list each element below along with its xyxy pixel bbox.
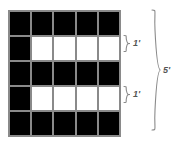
grid-cell bbox=[54, 12, 74, 35]
grid-cell bbox=[77, 62, 97, 85]
grid-cell bbox=[10, 12, 30, 35]
grid-cell bbox=[54, 37, 74, 60]
total-height-brace-icon bbox=[152, 10, 161, 130]
cell-grid bbox=[8, 10, 121, 137]
grid-cell bbox=[32, 37, 52, 60]
grid-cell bbox=[99, 87, 119, 110]
grid-cell bbox=[77, 12, 97, 35]
grid-cell bbox=[99, 37, 119, 60]
grid-cell bbox=[32, 62, 52, 85]
grid-cell bbox=[10, 112, 30, 135]
row-4-height-brace-icon bbox=[124, 87, 130, 103]
grid-cell bbox=[77, 37, 97, 60]
grid-cell bbox=[54, 62, 74, 85]
grid-cell bbox=[32, 87, 52, 110]
row-2-height-label: 1' bbox=[133, 39, 140, 48]
row-2-height-brace-icon bbox=[124, 36, 130, 52]
grid-cell bbox=[32, 12, 52, 35]
grid-cell bbox=[10, 62, 30, 85]
grid-cell bbox=[54, 87, 74, 110]
grid-cell bbox=[32, 112, 52, 135]
grid-cell bbox=[77, 112, 97, 135]
grid-diagram: 1' 1' 5' bbox=[0, 0, 180, 142]
grid-cell bbox=[54, 112, 74, 135]
grid-cell bbox=[10, 37, 30, 60]
grid-cell bbox=[99, 112, 119, 135]
grid-cell bbox=[99, 62, 119, 85]
grid-cell bbox=[77, 87, 97, 110]
grid-cell bbox=[99, 12, 119, 35]
grid-cell bbox=[10, 87, 30, 110]
total-height-label: 5' bbox=[163, 66, 170, 75]
row-4-height-label: 1' bbox=[133, 90, 140, 99]
